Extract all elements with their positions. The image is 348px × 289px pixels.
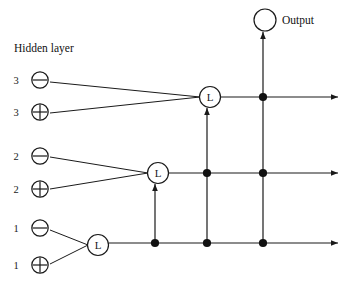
l-node-label-L3: L — [207, 91, 214, 103]
l-node-label-L1: L — [95, 239, 102, 251]
junction-dot-3 — [151, 239, 159, 247]
junction-dot-1 — [203, 169, 211, 177]
hidden-unit-index-0: 3 — [13, 75, 18, 86]
hidden-unit-index-1: 3 — [13, 107, 18, 118]
output-node — [254, 9, 276, 31]
edge-hidden-1-plus-to-L1 — [50, 245, 88, 264]
edge-hidden-1-minus-to-L1 — [50, 230, 88, 245]
edge-hidden-3-minus-to-L3 — [50, 82, 200, 97]
hidden-unit-index-5: 1 — [13, 260, 18, 271]
hidden-unit-index-3: 2 — [13, 184, 18, 195]
output-label: Output — [282, 14, 314, 26]
junction-dot-2 — [259, 169, 267, 177]
edge-hidden-2-plus-to-L2 — [50, 173, 148, 189]
network-diagram: 332211LLL Hidden layer Output — [0, 0, 348, 289]
edge-hidden-2-minus-to-L2 — [50, 157, 148, 173]
junction-dot-0 — [259, 93, 267, 101]
l-node-label-L2: L — [155, 167, 162, 179]
hidden-layer-title: Hidden layer — [14, 42, 74, 54]
junction-dot-4 — [203, 239, 211, 247]
junction-dot-5 — [259, 239, 267, 247]
edge-hidden-3-plus-to-L3 — [50, 97, 200, 113]
hidden-unit-index-2: 2 — [13, 151, 18, 162]
hidden-unit-index-4: 1 — [13, 223, 18, 234]
